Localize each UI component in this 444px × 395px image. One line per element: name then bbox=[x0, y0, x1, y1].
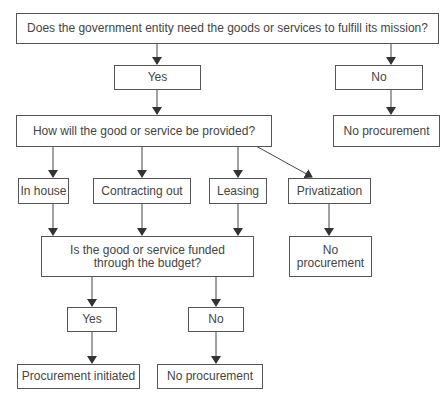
node-privatization-result: No procurement bbox=[289, 236, 372, 277]
node-how-question: How will the good or service be provided… bbox=[16, 115, 272, 147]
node-need-no-result: No procurement bbox=[333, 115, 440, 147]
node-need-question: Does the government entity need the good… bbox=[16, 13, 439, 44]
node-leasing: Leasing bbox=[209, 178, 267, 204]
node-budget-yes-result: Procurement initiated bbox=[17, 364, 140, 389]
procurement-flowchart: Does the government entity need the good… bbox=[0, 0, 444, 395]
node-contracting-out: Contracting out bbox=[93, 178, 191, 204]
node-need-yes: Yes bbox=[114, 65, 201, 90]
node-need-no: No bbox=[335, 65, 423, 90]
node-in-house: In house bbox=[18, 178, 69, 204]
node-privatization: Privatization bbox=[288, 178, 371, 204]
node-budget-no: No bbox=[188, 307, 244, 332]
node-budget-no-result: No procurement bbox=[157, 364, 263, 389]
node-budget-yes: Yes bbox=[67, 307, 117, 332]
node-budget-question: Is the good or service funded through th… bbox=[41, 236, 254, 277]
